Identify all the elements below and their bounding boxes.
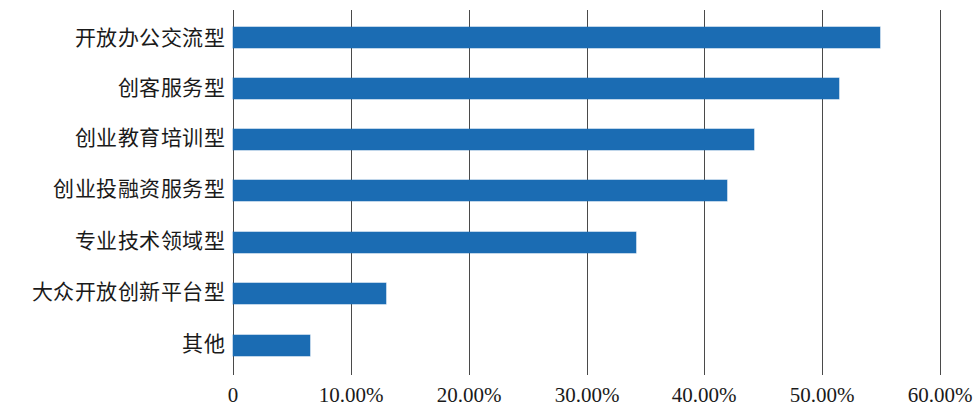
plot-area: [233, 10, 940, 375]
bar: [233, 283, 386, 304]
bar-chart: 开放办公交流型 创客服务型 创业教育培训型 创业投融资服务型 专业技术领域型 大…: [0, 0, 976, 415]
bar: [233, 129, 754, 150]
gridline: [940, 10, 941, 375]
category-label: 创客服务型: [0, 78, 225, 99]
category-label: 创业教育培训型: [0, 128, 225, 149]
bar: [233, 232, 636, 253]
bar: [233, 27, 880, 48]
bar: [233, 78, 839, 99]
bar: [233, 180, 727, 201]
bar: [233, 335, 310, 356]
category-label: 大众开放创新平台型: [0, 282, 225, 303]
gridline: [822, 10, 823, 375]
x-tick-label: 60.00%: [870, 383, 976, 407]
category-label: 专业技术领域型: [0, 231, 225, 252]
category-label: 其他: [0, 334, 225, 355]
category-label: 创业投融资服务型: [0, 179, 225, 200]
category-label: 开放办公交流型: [0, 28, 225, 49]
